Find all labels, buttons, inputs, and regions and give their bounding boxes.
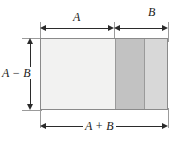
dimension-line-b: [116, 28, 166, 29]
extension-line-right: [168, 22, 169, 42]
arrowhead-b-right: [162, 25, 168, 31]
arrowhead-a-left: [40, 25, 46, 31]
dimension-line-a: [42, 28, 112, 29]
left-light-region: [41, 39, 115, 109]
label-b: B: [146, 6, 157, 18]
label-a: A: [71, 11, 82, 23]
arrowhead-apb-right: [162, 123, 168, 129]
arrowhead-apb-left: [40, 123, 46, 129]
extension-line-vert-bottom: [22, 110, 42, 111]
label-a-plus-b: A + B: [83, 120, 116, 132]
extension-line-bottom-right: [168, 108, 169, 128]
middle-dark-region: [115, 39, 144, 109]
main-rectangle: [40, 38, 168, 110]
arrowhead-ab-bottom: [27, 104, 33, 110]
right-gray-region: [144, 39, 168, 109]
divider-line-1: [115, 39, 116, 109]
arrowhead-b-left: [114, 25, 120, 31]
label-a-minus-b: A − B: [0, 67, 33, 79]
arrowhead-ab-top: [27, 38, 33, 44]
geometry-figure: A B A − B A + B: [0, 0, 176, 143]
divider-line-2: [144, 39, 145, 109]
